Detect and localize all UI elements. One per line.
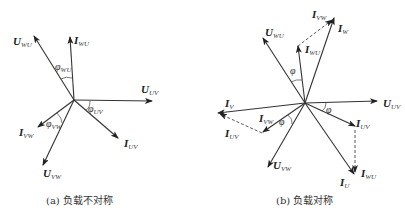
vector-b-i-vw-dashed [298,20,332,46]
label-a-u-wu: UWU [13,35,33,49]
angle-label-b-2: φ [326,104,332,115]
label-a-i-uv: IUV [123,137,138,151]
angle-arc-a-vw [57,113,62,123]
label-b-i-u: IU [339,176,350,190]
label-b-u-uv: UUV [383,97,401,111]
angle-label-b-1: φ [290,65,296,76]
vector-a-u-uv [74,100,152,101]
label-a-i-vw: IVW [18,126,35,140]
angle-label-b-3: φ [279,116,285,127]
angle-arc-b-1 [291,80,302,82]
vector-b-i-w [305,18,334,103]
diagram-a-unbalanced: UWU IWU UUV IUV IVW UVW φWU φUV φVW (a) … [13,34,159,206]
label-a-u-vw: UVW [43,167,62,181]
label-a-u-uv: UUV [141,83,159,97]
label-b-i-vw-top: IVW [311,8,328,22]
label-b-i-vw: IVW [258,112,275,126]
label-b-i-w: IW [337,22,349,36]
vector-a-u-vw [43,100,74,165]
diagram-b-balanced: UWU IWU IW IVW UUV IUV IU IWU IV IVW IUV… [218,8,401,206]
label-b-i-uv: IUV [355,117,370,131]
angle-arc-a-wu [61,77,72,79]
vector-b-u-vw [268,103,305,167]
label-a-i-wu: IWU [73,34,90,48]
label-b-i-v: IV [224,97,234,111]
caption-b: (b) 负载对称 [276,194,333,206]
angle-arc-b-3 [288,115,292,124]
vector-b-u-uv [305,101,377,103]
angle-label-a-vw: φVW [46,118,63,131]
caption-a: (a) 负载不对称 [46,194,113,206]
label-b-i-uv-left: IUV [224,127,239,141]
label-b-u-wu: UWU [265,26,285,40]
angle-label-a-wu: φWU [55,61,72,74]
label-b-u-vw: UVW [273,159,292,173]
vector-a-i-uv [74,100,118,138]
phasor-diagrams: UWU IWU UUV IUV IVW UVW φWU φUV φVW (a) … [0,0,405,224]
label-b-i-wu-bottom: IWU [360,167,377,181]
label-b-i-wu: IWU [304,43,321,57]
